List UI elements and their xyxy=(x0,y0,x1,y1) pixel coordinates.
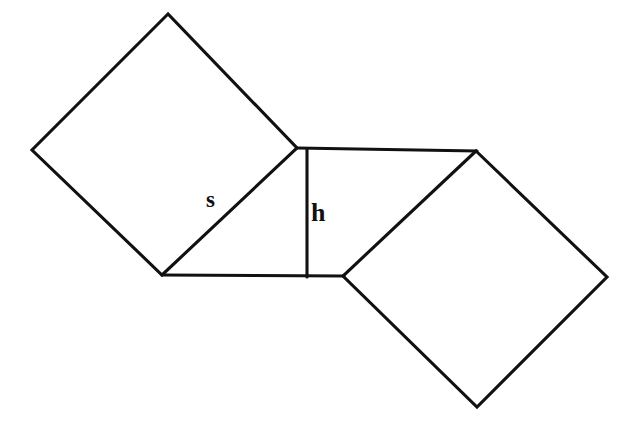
right-square xyxy=(343,151,607,407)
bottom-edge xyxy=(162,275,344,276)
height-label-h: h xyxy=(311,200,325,226)
geometry-diagram: s h xyxy=(0,0,634,426)
top-edge xyxy=(297,148,477,151)
left-square xyxy=(32,14,297,275)
side-length-label-s: s xyxy=(206,188,215,211)
